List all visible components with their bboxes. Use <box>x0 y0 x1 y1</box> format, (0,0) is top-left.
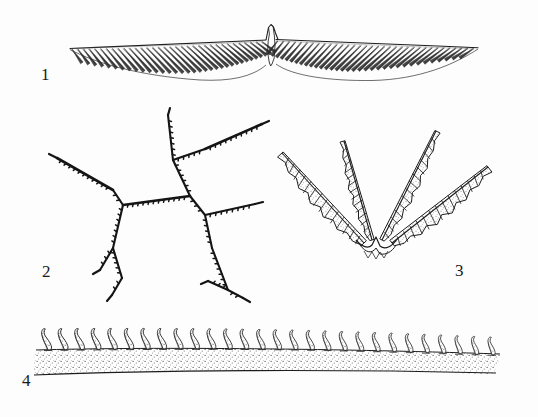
illustration-plate: 1 2 3 4 <box>0 0 538 417</box>
figure-1-label: 1 <box>41 66 50 83</box>
figure-4-drawing <box>0 300 538 417</box>
figure-2-branches <box>49 108 269 302</box>
figure-3 <box>260 125 538 300</box>
figure-4-label: 4 <box>22 372 31 389</box>
figure-4 <box>0 300 538 417</box>
figure-2-label: 2 <box>42 263 51 280</box>
figure-3-drawing <box>260 125 538 300</box>
figure-3-label: 3 <box>455 262 464 279</box>
figure-4-band <box>34 348 500 375</box>
figure-3-arms <box>278 130 492 245</box>
